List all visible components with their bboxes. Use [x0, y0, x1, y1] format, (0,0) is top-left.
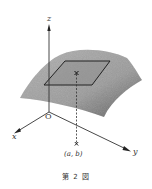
origin-label: O: [45, 113, 52, 121]
y-axis-label: y: [133, 148, 138, 156]
x-axis-label: x: [12, 133, 17, 141]
point-ab-label: (a, b): [64, 150, 83, 158]
diagram-canvas: [0, 0, 152, 189]
y-axis: [49, 112, 131, 152]
z-axis-label: z: [47, 15, 51, 23]
ab-point-marker: [75, 142, 78, 146]
x-axis: [14, 112, 49, 134]
figure-caption: 第 2 図: [0, 171, 152, 181]
tangent-plane-figure: z x y O (a, b) 第 2 図: [0, 0, 152, 189]
